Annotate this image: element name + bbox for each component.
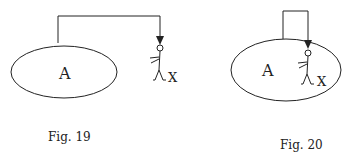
region-a-label: A — [261, 61, 274, 80]
diagram-canvas: A X Fig. 19 A X — [0, 0, 349, 158]
figure-19: A X Fig. 19 — [11, 16, 178, 144]
region-a-ellipse — [231, 39, 341, 101]
figure-20: A X Fig. 20 — [231, 11, 341, 152]
stick-figure-icon — [298, 50, 314, 84]
arrow-path — [58, 16, 160, 43]
person-x-label: X — [317, 74, 327, 89]
arrowhead-icon — [156, 36, 164, 45]
arrow-path — [283, 11, 308, 42]
region-a-label: A — [58, 64, 71, 83]
stick-figure-icon — [150, 45, 166, 80]
figure-caption: Fig. 20 — [280, 138, 323, 152]
figure-caption: Fig. 19 — [48, 130, 91, 144]
person-x-label: X — [168, 70, 178, 85]
arrowhead-icon — [304, 40, 312, 49]
